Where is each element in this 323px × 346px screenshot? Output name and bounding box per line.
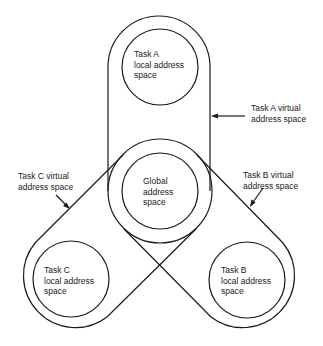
task-b-local-label: Task B local address space (221, 265, 271, 297)
task-b-virtual-label: Task B virtual address space (243, 170, 298, 191)
task-a-local-label: Task A local address space (134, 49, 184, 81)
virtual-address-space-diagram: Task A local address space Task A virtua… (0, 0, 323, 346)
task-c-arrow-icon (56, 195, 70, 209)
task-c-virtual-label: Task C virtual address space (18, 171, 73, 192)
task-a-virtual-label: Task A virtual address space (251, 103, 306, 124)
task-a-virtual-space-outline (108, 16, 210, 191)
global-label: Global address space (143, 176, 173, 208)
task-c-local-label: Task C local address space (44, 265, 94, 297)
task-a-arrow-icon (211, 114, 245, 119)
